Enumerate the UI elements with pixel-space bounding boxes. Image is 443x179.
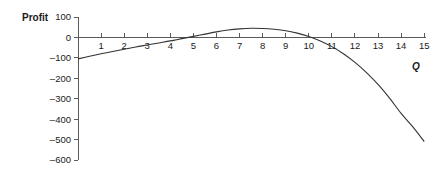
x-tick-label: 5 — [191, 40, 196, 51]
y-axis-tick-labels: 1000–100–200–300–400–500–600 — [50, 11, 71, 165]
x-axis: 123456789101112131415 — [78, 33, 429, 51]
y-tick-label: –400 — [50, 114, 71, 125]
chart-canvas: 1000–100–200–300–400–500–600 12345678910… — [0, 0, 443, 179]
y-tick-label: 0 — [66, 32, 71, 43]
y-tick-label: –300 — [50, 93, 71, 104]
x-tick-label: 6 — [214, 40, 219, 51]
x-axis-tick-labels: 123456789101112131415 — [98, 40, 429, 51]
x-axis-ticks — [101, 33, 424, 37]
y-axis-title: Profit — [22, 12, 49, 23]
y-tick-label: –200 — [50, 73, 71, 84]
x-tick-label: 11 — [327, 40, 337, 51]
x-tick-label: 15 — [419, 40, 430, 51]
x-tick-label: 3 — [145, 40, 150, 51]
x-tick-label: 14 — [396, 40, 407, 51]
profit-chart: 1000–100–200–300–400–500–600 12345678910… — [0, 0, 443, 179]
x-tick-label: 1 — [98, 40, 103, 51]
x-tick-label: 13 — [373, 40, 384, 51]
y-tick-label: –500 — [50, 134, 71, 145]
y-tick-label: –100 — [50, 52, 71, 63]
x-axis-title: Q — [412, 61, 420, 72]
x-tick-label: 10 — [304, 40, 315, 51]
y-axis-ticks — [74, 17, 78, 160]
x-tick-label: 4 — [168, 40, 173, 51]
y-axis: 1000–100–200–300–400–500–600 — [50, 11, 78, 165]
x-tick-label: 9 — [283, 40, 288, 51]
x-tick-label: 12 — [350, 40, 361, 51]
x-tick-label: 7 — [237, 40, 242, 51]
y-tick-label: 100 — [55, 11, 71, 22]
x-tick-label: 8 — [260, 40, 265, 51]
y-tick-label: –600 — [50, 154, 71, 165]
